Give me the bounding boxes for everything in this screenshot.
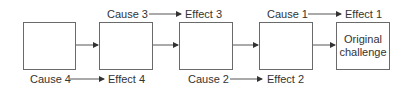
- cause-2-label: Cause 2: [188, 73, 229, 85]
- cause-4-label: Cause 4: [30, 73, 71, 85]
- chain-box-4: [259, 22, 313, 70]
- effect-1-label: Effect 1: [345, 8, 382, 20]
- effect-3-label: Effect 3: [185, 8, 222, 20]
- effect-4-label: Effect 4: [108, 73, 145, 85]
- original-challenge-label: Original challenge: [337, 33, 389, 59]
- cause-1-label: Cause 1: [267, 8, 308, 20]
- effect-2-label: Effect 2: [267, 73, 304, 85]
- cause-3-label: Cause 3: [107, 8, 148, 20]
- chain-box-1: [23, 22, 76, 70]
- chain-box-2: [99, 22, 153, 70]
- original-challenge-line1: Original: [337, 33, 389, 46]
- chain-box-3: [179, 22, 233, 70]
- original-challenge-box: Original challenge: [336, 22, 390, 70]
- original-challenge-line2: challenge: [337, 46, 389, 59]
